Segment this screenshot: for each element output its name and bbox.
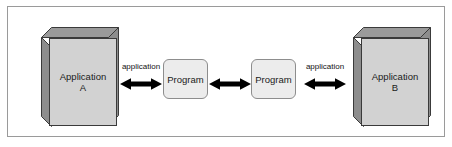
connector-3-label: application bbox=[296, 63, 354, 71]
bidirectional-arrow-icon bbox=[209, 77, 251, 95]
application-a-face: Application A bbox=[49, 38, 117, 126]
program-1-label: Program bbox=[167, 74, 203, 85]
node-program-2[interactable]: Program bbox=[251, 59, 296, 99]
connector-program-2-to-app-b: application bbox=[296, 63, 354, 97]
diagram-canvas: Application A application Program bbox=[0, 0, 452, 147]
connector-app-a-to-program-1: application bbox=[118, 63, 164, 97]
node-program-1[interactable]: Program bbox=[163, 59, 208, 99]
bidirectional-arrow-icon bbox=[120, 77, 162, 95]
bidirectional-arrow-icon bbox=[304, 77, 346, 95]
application-b-label-line2: B bbox=[392, 82, 398, 93]
connector-program-1-to-program-2 bbox=[207, 63, 252, 97]
diagram-frame: Application A application Program bbox=[7, 6, 445, 137]
program-2-label: Program bbox=[255, 74, 291, 85]
application-a-label-line2: A bbox=[80, 82, 86, 93]
application-b-label-line1: Application bbox=[372, 71, 418, 82]
node-application-b[interactable]: Application B bbox=[353, 27, 431, 127]
application-b-face: Application B bbox=[361, 38, 429, 126]
node-application-a[interactable]: Application A bbox=[41, 27, 119, 127]
application-a-label-line1: Application bbox=[60, 71, 106, 82]
connector-1-label: application bbox=[118, 63, 164, 71]
